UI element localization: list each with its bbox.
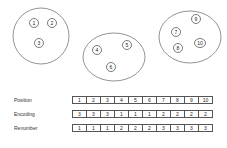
renumber-cell: 1	[87, 125, 101, 131]
node-4: 4	[93, 46, 102, 55]
encoding-cell: 3	[73, 111, 87, 117]
svg-text:8: 8	[177, 45, 180, 51]
svg-text:1: 1	[33, 20, 36, 26]
node-1: 1	[30, 19, 39, 28]
encoding-cell: 2	[171, 111, 185, 117]
renumber-cell: 2	[143, 125, 157, 131]
svg-text:5: 5	[126, 42, 129, 48]
position-row: 1 2 3 4 5 6 7 8 9 10	[72, 96, 213, 104]
group-1: 123	[13, 8, 69, 64]
renumber-cell: 3	[171, 125, 185, 131]
row-label-renumber: Renumber	[14, 125, 37, 131]
group-3: 97810	[159, 11, 221, 63]
node-7: 7	[172, 28, 181, 37]
position-cell: 1	[73, 97, 87, 103]
renumber-cell: 2	[115, 125, 129, 131]
renumber-cell: 3	[199, 125, 212, 131]
node-10: 10	[195, 39, 206, 48]
svg-text:6: 6	[110, 64, 113, 70]
position-cell: 2	[87, 97, 101, 103]
node-5: 5	[123, 41, 132, 50]
row-label-position: Position	[14, 97, 32, 103]
group-2: 456	[83, 33, 145, 81]
svg-text:3: 3	[38, 40, 41, 46]
node-2: 2	[48, 19, 57, 28]
renumber-cell: 1	[101, 125, 115, 131]
position-cell: 4	[115, 97, 129, 103]
encoding-cell: 1	[143, 111, 157, 117]
svg-text:7: 7	[175, 29, 178, 35]
group-ellipse	[83, 33, 145, 81]
encoding-cell: 2	[199, 111, 212, 117]
encoding-cell: 2	[157, 111, 171, 117]
renumber-cell: 2	[129, 125, 143, 131]
position-cell: 6	[143, 97, 157, 103]
position-cell: 7	[157, 97, 171, 103]
encoding-cell: 2	[185, 111, 199, 117]
node-6: 6	[107, 63, 116, 72]
renumber-cell: 3	[185, 125, 199, 131]
svg-text:2: 2	[51, 20, 54, 26]
encoding-cell: 3	[101, 111, 115, 117]
position-cell: 10	[199, 97, 212, 103]
svg-text:10: 10	[197, 40, 203, 46]
row-label-encoding: Encoding	[14, 111, 35, 117]
renumber-row: 1 1 1 2 2 2 3 3 3 3	[72, 124, 213, 132]
group-ellipse	[159, 11, 221, 63]
position-cell: 3	[101, 97, 115, 103]
encoding-cell: 1	[115, 111, 129, 117]
encoding-cell: 1	[129, 111, 143, 117]
renumber-cell: 3	[157, 125, 171, 131]
svg-text:4: 4	[96, 47, 99, 53]
encoding-row: 3 3 3 1 1 1 2 2 2 2	[72, 110, 213, 118]
encoding-cell: 3	[87, 111, 101, 117]
svg-text:9: 9	[195, 16, 198, 22]
group-ellipse	[13, 8, 69, 64]
node-8: 8	[174, 44, 183, 53]
position-cell: 8	[171, 97, 185, 103]
renumber-cell: 1	[73, 125, 87, 131]
node-3: 3	[35, 39, 44, 48]
position-cell: 5	[129, 97, 143, 103]
position-cell: 9	[185, 97, 199, 103]
node-9: 9	[192, 15, 201, 24]
cluster-diagram: 12345697810	[0, 0, 227, 90]
